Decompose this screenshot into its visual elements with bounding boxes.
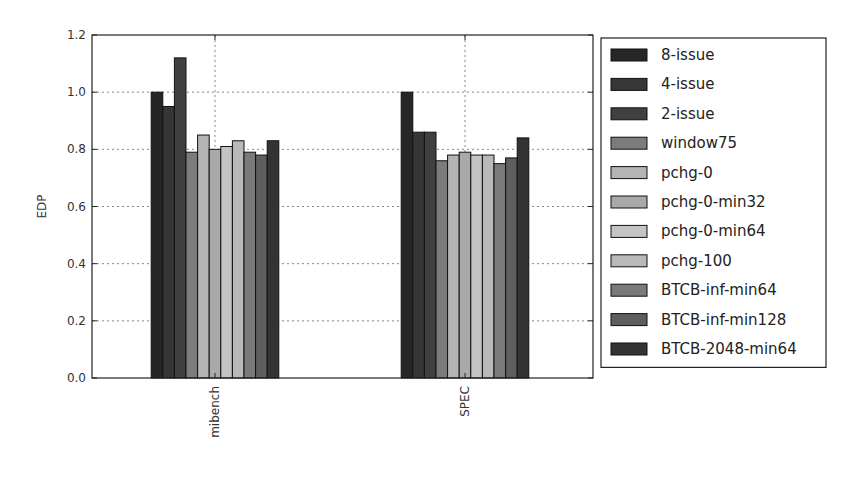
bar [517, 138, 529, 378]
bar [267, 141, 279, 378]
legend-label: window75 [661, 134, 737, 152]
legend-label: 2-issue [661, 105, 715, 123]
bar [232, 141, 244, 378]
legend-label: pchg-0-min64 [661, 222, 766, 240]
legend-item: BTCB-inf-min64 [611, 281, 777, 299]
legend-label: pchg-0-min32 [661, 193, 766, 211]
bar [163, 106, 175, 378]
x-tick-label: mibench [208, 386, 222, 438]
legend-swatch [611, 196, 647, 208]
legend-item: pchg-100 [611, 252, 732, 270]
bar [221, 146, 233, 378]
bar [482, 155, 494, 378]
y-axis-label: EDP [35, 194, 49, 218]
bar [151, 92, 163, 378]
legend-label: pchg-100 [661, 252, 732, 270]
legend-swatch [611, 49, 647, 61]
legend-swatch [611, 255, 647, 267]
legend-item: 2-issue [611, 105, 715, 123]
legend-swatch [611, 225, 647, 237]
legend-item: BTCB-2048-min64 [611, 340, 797, 358]
y-tick-label: 0.6 [67, 200, 86, 214]
edp-bar-chart: 0.00.20.40.60.81.01.2 mibenchSPEC EDP 8-… [0, 0, 862, 477]
bar [209, 149, 221, 378]
legend-item: pchg-0-min64 [611, 222, 766, 240]
bar [186, 152, 198, 378]
y-tick-label: 0.0 [67, 371, 86, 385]
bar [494, 164, 506, 378]
bar [506, 158, 518, 378]
bar [436, 161, 448, 378]
bar [424, 132, 436, 378]
legend-item: pchg-0-min32 [611, 193, 766, 211]
legend-item: BTCB-inf-min128 [611, 311, 786, 329]
legend-item: pchg-0 [611, 164, 713, 182]
legend-item: 8-issue [611, 46, 715, 64]
bar [244, 152, 256, 378]
bar [174, 58, 186, 378]
x-tick-label: SPEC [458, 386, 472, 417]
bar [448, 155, 460, 378]
y-tick-label: 0.8 [67, 142, 86, 156]
legend-label: BTCB-2048-min64 [661, 340, 797, 358]
legend-swatch [611, 108, 647, 120]
bar [198, 135, 210, 378]
legend-label: 4-issue [661, 75, 715, 93]
legend-swatch [611, 314, 647, 326]
legend-label: BTCB-inf-min64 [661, 281, 777, 299]
bar [413, 132, 425, 378]
legend-swatch [611, 78, 647, 90]
bar [256, 155, 268, 378]
legend-swatch [611, 343, 647, 355]
bar [401, 92, 413, 378]
legend-item: 4-issue [611, 75, 715, 93]
bar [459, 152, 471, 378]
y-tick-label: 0.4 [67, 257, 86, 271]
legend-label: 8-issue [661, 46, 715, 64]
bar [471, 155, 483, 378]
legend-swatch [611, 137, 647, 149]
bar-groups [151, 58, 529, 378]
legend-swatch [611, 167, 647, 179]
y-tick-label: 1.0 [67, 85, 86, 99]
legend-label: BTCB-inf-min128 [661, 311, 786, 329]
legend-label: pchg-0 [661, 164, 713, 182]
legend-item: window75 [611, 134, 737, 152]
legend: 8-issue4-issue2-issuewindow75pchg-0pchg-… [601, 38, 826, 367]
legend-swatch [611, 284, 647, 296]
y-tick-label: 0.2 [67, 314, 86, 328]
y-tick-label: 1.2 [67, 28, 86, 42]
